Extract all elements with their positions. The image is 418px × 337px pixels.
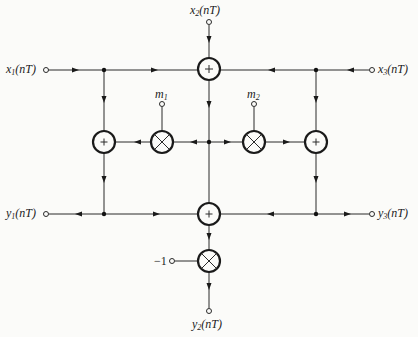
adder-left <box>93 131 115 153</box>
terminal-x1 <box>44 68 49 73</box>
terminal-x3 <box>370 68 375 73</box>
terminal-y2 <box>207 309 212 314</box>
label-y2: y2(nT) <box>192 318 222 332</box>
label-x1: x1(nT) <box>6 63 36 77</box>
adder-top <box>198 58 220 80</box>
terminal-m2 <box>252 102 257 107</box>
label-m1: m1 <box>155 88 168 102</box>
terminal-y1 <box>44 212 49 217</box>
diagram-graphics <box>0 0 418 337</box>
label-neg1: −1 <box>154 255 167 267</box>
signal-flow-diagram: x1(nT) x2(nT) x3(nT) m1 m2 y1(nT) y3(nT)… <box>0 0 418 337</box>
label-x3: x3(nT) <box>378 63 408 77</box>
multiplier-m2 <box>243 131 265 153</box>
label-y3: y3(nT) <box>378 207 408 221</box>
terminal-y3 <box>370 212 375 217</box>
terminal-m1 <box>160 102 165 107</box>
multiplier-neg1 <box>198 250 220 272</box>
label-y1: y1(nT) <box>6 207 36 221</box>
multiplier-m1 <box>151 131 173 153</box>
label-m2: m2 <box>247 88 260 102</box>
terminal-x2 <box>207 20 212 25</box>
adder-bottom <box>198 203 220 225</box>
adder-right <box>305 131 327 153</box>
terminal-neg1 <box>170 259 175 264</box>
label-x2: x2(nT) <box>190 4 220 18</box>
